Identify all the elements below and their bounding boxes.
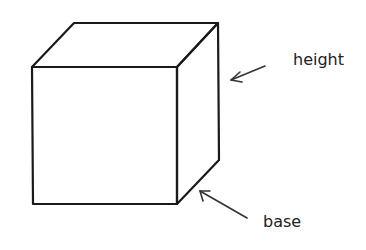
cube-side-face xyxy=(177,23,219,204)
height-label: height xyxy=(293,50,344,69)
height-arrow-icon xyxy=(231,66,265,82)
cube-front-face xyxy=(32,67,177,204)
base-label: base xyxy=(263,212,301,231)
base-arrow-icon xyxy=(200,191,247,218)
cube-top-face xyxy=(32,23,218,67)
cube-diagram: height base xyxy=(0,0,366,250)
